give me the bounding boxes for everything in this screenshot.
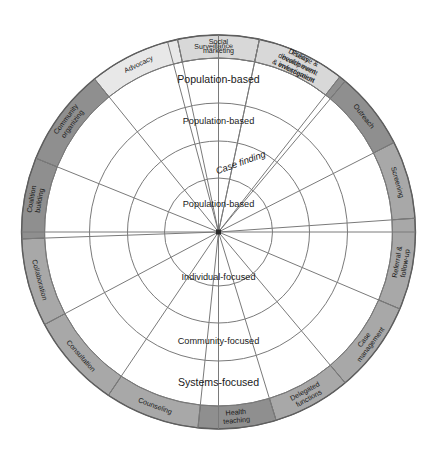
intervention-wheel-diagram: SurveillanceDisease &health eventinvesti… bbox=[0, 0, 439, 455]
ring-labels-group: Population-basedPopulation-basedCase fin… bbox=[177, 73, 267, 388]
ring-label: Individual-focused bbox=[181, 272, 255, 282]
ring-label: Population-based bbox=[183, 116, 255, 126]
ring-label: Case finding bbox=[214, 148, 267, 176]
wheel-spoke bbox=[219, 232, 277, 420]
ring-label: Population-based bbox=[183, 199, 255, 209]
wheel-spoke bbox=[22, 232, 219, 239]
ring-label: Community-focused bbox=[178, 336, 260, 346]
ring-label: Population-based bbox=[177, 73, 260, 85]
ring-label: Systems-focused bbox=[178, 376, 259, 388]
wheel-spoke bbox=[36, 158, 219, 232]
wheel-spoke bbox=[198, 232, 219, 428]
wheel-spoke bbox=[108, 232, 218, 395]
wheel-center-hub bbox=[216, 230, 221, 235]
wheel-hub bbox=[216, 230, 221, 235]
wheel-spoke bbox=[219, 232, 346, 383]
wheel-spoke bbox=[219, 218, 416, 232]
